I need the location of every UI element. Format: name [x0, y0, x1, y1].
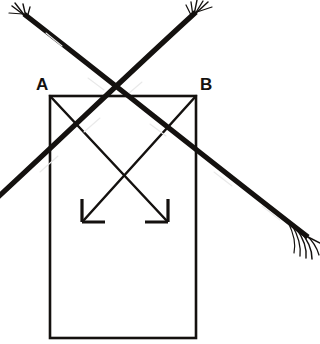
- diagram-canvas: A B: [0, 0, 320, 344]
- arrow-b-shaft: [84, 96, 196, 220]
- frayed-stroke-descending-body: [24, 14, 308, 237]
- vertex-label-b: B: [200, 76, 213, 93]
- frayed-stroke-ascending-body: [0, 12, 196, 198]
- frayed-end-lower-right-icon: [288, 222, 320, 259]
- arrow-b-to-lower-left: [82, 96, 196, 222]
- vertex-label-a: A: [36, 76, 49, 93]
- diagram-svg: [0, 0, 320, 344]
- frayed-stroke-ascending: [0, 0, 212, 198]
